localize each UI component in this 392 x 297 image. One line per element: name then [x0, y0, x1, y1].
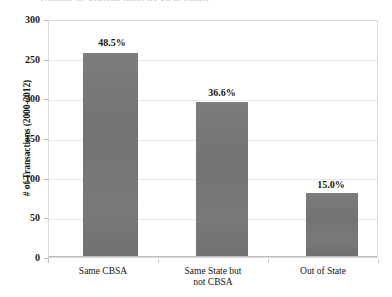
x-tick-mark-2 — [268, 259, 269, 263]
data-label-out-of-state: 15.0% — [281, 180, 381, 190]
data-label-same-cbsa: 48.5% — [62, 38, 162, 48]
y-tick-label-50: 50 — [0, 213, 40, 223]
x-tick-mark-1 — [158, 259, 159, 263]
x-category-label-out-of-state: Out of State — [273, 266, 373, 277]
y-tick-label-250: 250 — [0, 55, 40, 65]
x-category-label-same-state-not-cbsa: Same State but not CBSA — [163, 266, 263, 288]
x-tick-mark-right — [378, 259, 379, 263]
y-tick-label-200: 200 — [0, 94, 40, 104]
x-category-label-same-cbsa: Same CBSA — [53, 266, 153, 277]
y-tick-label-100: 100 — [0, 174, 40, 184]
data-label-same-state-not-cbsa: 36.6% — [172, 88, 272, 98]
x-axis-baseline — [49, 256, 377, 257]
y-tick-label-150: 150 — [0, 134, 40, 144]
y-tick-label-300: 300 — [0, 15, 40, 25]
y-tick-label-0: 0 — [0, 253, 40, 263]
bar-chart-figure: Exhibit 3: Transactions by Geography # o… — [0, 0, 392, 297]
bar-same-state-not-cbsa[interactable] — [196, 102, 248, 256]
x-tick-mark-left — [48, 259, 49, 263]
bar-same-cbsa[interactable] — [83, 53, 138, 256]
plot-area — [48, 20, 378, 258]
clipped-title-remnant: Exhibit 3: Transactions by Geography — [40, 0, 340, 1]
bar-out-of-state[interactable] — [306, 193, 358, 256]
